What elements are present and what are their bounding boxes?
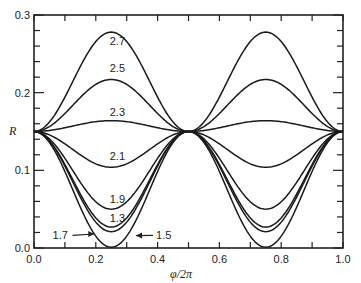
x-tick-label: 0.8 [274,253,289,265]
curve-2.1 [34,132,343,168]
arrowhead-icon [136,233,142,239]
curve-label-1.3: 1.3 [110,212,125,224]
x-tick-label: 0.2 [88,253,103,265]
x-tick-label: 0.4 [150,253,165,265]
y-tick-label: 0.2 [15,87,30,99]
x-axis-label: φ/2π [170,267,193,281]
curve-label-2.3: 2.3 [110,106,125,118]
curve-label-2.5: 2.5 [110,62,125,74]
curve-1.3 [34,132,343,228]
curve-label-1.9: 1.9 [110,193,125,205]
y-tick-label: 0.3 [15,9,30,21]
x-tick-label: 0.0 [26,253,41,265]
y-tick-label: 0.0 [15,242,30,254]
curve-labels: 2.72.52.32.11.91.31.51.7 [53,35,172,242]
x-tick-label: 0.6 [212,253,227,265]
axes: 0.00.20.40.60.81.00.00.10.20.3 [15,9,351,265]
line-chart: 0.00.20.40.60.81.00.00.10.20.3 2.72.52.3… [0,0,361,283]
curve-2.3 [34,121,343,132]
data-curves [34,32,343,247]
curve-2.7 [34,32,343,131]
curve-label-2.7: 2.7 [110,35,125,47]
curve-label-1.5: 1.5 [156,229,171,241]
curve-label-2.1: 2.1 [110,150,125,162]
x-tick-label: 1.0 [335,253,350,265]
curve-1.7 [34,132,343,248]
curve-label-1.7: 1.7 [53,229,68,241]
y-axis-label: R [8,124,17,138]
y-tick-label: 0.1 [15,164,30,176]
